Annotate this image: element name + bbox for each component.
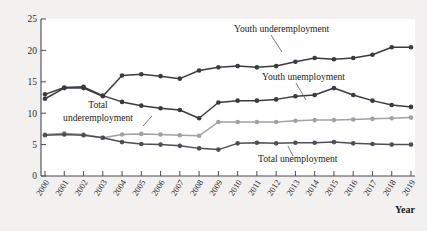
data-point xyxy=(312,140,317,145)
data-point xyxy=(43,92,48,97)
data-point xyxy=(197,68,202,73)
data-point xyxy=(235,64,240,69)
data-point xyxy=(139,142,144,147)
data-point xyxy=(312,118,317,123)
data-point xyxy=(389,116,394,121)
x-axis-title: Year xyxy=(395,204,416,215)
data-point xyxy=(274,64,279,69)
data-point xyxy=(370,53,375,58)
data-point xyxy=(332,118,337,123)
y-axis-tick-label: 25 xyxy=(28,14,38,24)
y-axis-tick-label: 0 xyxy=(32,171,37,181)
data-point xyxy=(120,132,125,137)
data-point xyxy=(235,120,240,125)
data-point xyxy=(139,103,144,108)
data-point xyxy=(409,105,414,110)
data-point xyxy=(409,115,414,120)
data-point xyxy=(216,65,221,70)
data-point xyxy=(351,93,356,98)
data-point xyxy=(81,133,86,138)
data-point xyxy=(197,134,202,139)
data-point xyxy=(409,45,414,50)
data-point xyxy=(255,120,260,125)
data-point xyxy=(43,96,48,101)
data-point xyxy=(216,147,221,152)
data-point xyxy=(158,74,163,79)
data-point xyxy=(332,57,337,62)
data-point xyxy=(120,140,125,145)
data-point xyxy=(370,142,375,147)
data-point xyxy=(255,65,260,70)
data-point xyxy=(158,132,163,137)
data-point xyxy=(139,72,144,77)
annotation-total-underemployment-line2: underemployment xyxy=(63,112,133,123)
data-point xyxy=(255,140,260,145)
data-point xyxy=(312,93,317,98)
data-point xyxy=(351,141,356,146)
data-point xyxy=(178,76,183,81)
data-point xyxy=(389,45,394,50)
data-point xyxy=(274,97,279,102)
data-point xyxy=(293,94,298,99)
data-point xyxy=(293,59,298,64)
data-point xyxy=(293,140,298,145)
data-point xyxy=(178,133,183,138)
y-axis-tick-label: 20 xyxy=(28,46,38,56)
data-point xyxy=(332,86,337,91)
data-point xyxy=(216,100,221,105)
data-point xyxy=(81,85,86,90)
data-point xyxy=(216,120,221,125)
data-point xyxy=(120,100,125,105)
data-point xyxy=(409,142,414,147)
annotation-total-unemployment: Total unemployment xyxy=(258,153,338,164)
data-point xyxy=(158,142,163,147)
data-point xyxy=(312,56,317,61)
annotation-total-underemployment-line1: Total xyxy=(88,99,108,110)
data-point xyxy=(120,73,125,78)
data-point xyxy=(351,117,356,122)
data-point xyxy=(274,141,279,146)
y-axis-tick-label: 5 xyxy=(32,140,37,150)
data-point xyxy=(62,85,67,90)
y-axis-tick-label: 15 xyxy=(28,77,38,87)
data-point xyxy=(293,118,298,123)
annotation-youth-unemployment: Youth unemployment xyxy=(262,71,345,82)
data-point xyxy=(332,140,337,145)
employment-rates-line-chart: 0510152025 20002001200220032004200520062… xyxy=(0,0,427,231)
data-point xyxy=(255,98,260,103)
y-axis-tick-label: 10 xyxy=(28,109,38,119)
data-point xyxy=(370,117,375,122)
data-point xyxy=(370,98,375,103)
data-point xyxy=(158,106,163,111)
data-point xyxy=(389,142,394,147)
annotation-youth-underemployment: Youth underemployment xyxy=(234,23,330,34)
data-point xyxy=(100,135,105,140)
data-point xyxy=(274,120,279,125)
plot-area-background xyxy=(41,19,415,176)
data-point xyxy=(62,132,67,137)
data-point xyxy=(197,116,202,121)
data-point xyxy=(139,132,144,137)
data-point xyxy=(178,108,183,113)
data-point xyxy=(197,146,202,151)
data-point xyxy=(235,98,240,103)
data-point xyxy=(100,93,105,98)
data-point xyxy=(351,56,356,61)
data-point xyxy=(43,133,48,138)
data-point xyxy=(235,141,240,146)
data-point xyxy=(389,103,394,108)
data-point xyxy=(178,144,183,149)
